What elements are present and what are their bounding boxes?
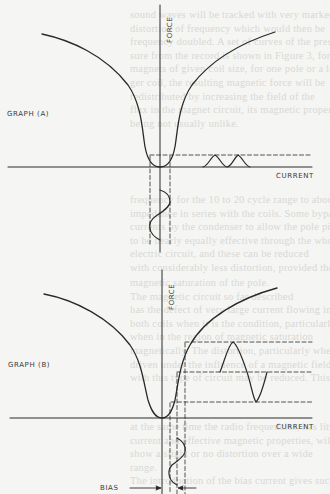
graph-a-output-waveform <box>203 155 250 167</box>
graph-a-force-label: FORCE <box>166 17 174 43</box>
bias-label: BIAS <box>100 484 119 492</box>
graph-a-current-label: CURRENT <box>276 172 314 180</box>
graph-a <box>8 5 312 252</box>
graph-b-force-label: FORCE <box>168 284 176 310</box>
bias-arrow-left-head <box>156 486 161 490</box>
graph-b-current-label: CURRENT <box>276 423 314 431</box>
graph-b <box>10 270 312 494</box>
bias-arrow-right-head <box>178 486 183 490</box>
graph-b-label: GRAPH (B) <box>8 361 50 369</box>
graph-a-label: GRAPH (A) <box>7 110 49 118</box>
graph-a-force-curve <box>42 32 275 167</box>
graph-b-force-curve <box>44 288 277 418</box>
